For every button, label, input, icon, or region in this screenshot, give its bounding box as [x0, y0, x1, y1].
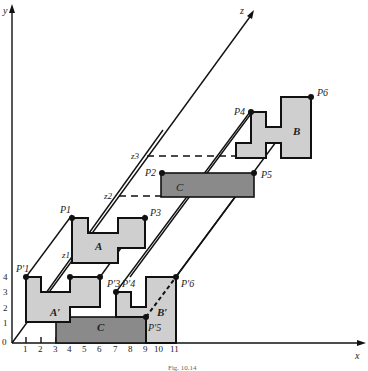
x-tick-9: 9 — [143, 344, 148, 354]
label-p3-prime: P′3 — [106, 278, 120, 289]
object-b-label: B — [292, 125, 300, 137]
point-a-prime-corner — [67, 274, 73, 280]
x-tick-5: 5 — [82, 344, 87, 354]
z3-label: z3 — [130, 151, 140, 161]
point-p6 — [308, 94, 314, 100]
z1-label: z1 — [61, 250, 70, 260]
x-tick-4: 4 — [67, 344, 72, 354]
point-p5-prime — [143, 314, 149, 320]
label-p5: P5 — [260, 169, 272, 180]
z-axis-arrow-icon — [247, 10, 254, 19]
point-p4-prime — [113, 289, 119, 295]
label-p4: P4 — [233, 106, 245, 117]
x-axis-label: x — [354, 350, 360, 361]
label-p5-prime: P′5 — [147, 322, 161, 333]
label-p1-prime: P′1 — [15, 263, 29, 274]
figure-caption: Fig. 10.14 — [168, 364, 197, 371]
z-axis-label: z — [239, 5, 244, 16]
x-tick-7: 7 — [113, 344, 118, 354]
x-tick-8: 8 — [128, 344, 133, 354]
x-axis-arrow-icon — [357, 340, 366, 346]
projector-p4 — [116, 112, 250, 292]
label-p2: P2 — [144, 167, 156, 178]
point-p4 — [248, 109, 254, 115]
projector-p1 — [26, 215, 72, 277]
label-p6-prime: P′6 — [180, 278, 194, 289]
object-a — [72, 218, 145, 263]
origin-label: 0 — [2, 337, 7, 347]
object-c-label: C — [176, 181, 184, 193]
point-p6-prime — [173, 274, 179, 280]
point-p3 — [142, 215, 148, 221]
point-p1 — [69, 215, 75, 221]
label-p4-prime: P′4 — [121, 278, 135, 289]
object-a-label: A — [94, 240, 102, 252]
object-c-prime-label: C — [97, 321, 105, 333]
x-tick-3: 3 — [53, 344, 58, 354]
y-tick-2: 2 — [3, 303, 8, 313]
x-tick-1: 1 — [23, 344, 28, 354]
x-tick-2: 2 — [38, 344, 43, 354]
y-tick-3: 3 — [3, 287, 8, 297]
z2-label: z2 — [103, 191, 113, 201]
point-p1-prime — [23, 274, 29, 280]
object-a-prime-label: A′ — [49, 306, 60, 318]
object-a-prime — [26, 277, 100, 322]
object-b-prime-label: B′ — [156, 306, 167, 318]
y-axis-arrow-icon — [9, 4, 15, 13]
x-tick-6: 6 — [97, 344, 102, 354]
point-p2 — [159, 170, 165, 176]
object-c — [161, 173, 254, 197]
point-p3-prime — [97, 274, 103, 280]
x-tick-10: 10 — [154, 344, 164, 354]
label-p6: P6 — [316, 87, 328, 98]
y-tick-1: 1 — [3, 318, 8, 328]
label-p3: P3 — [149, 207, 161, 218]
label-p1: P1 — [59, 204, 71, 215]
point-p5 — [251, 170, 257, 176]
y-tick-4: 4 — [3, 272, 8, 282]
projection-diagram: y x z 0 1 2 3 4 5 6 7 8 9 10 11 1 2 3 4 … — [0, 0, 368, 371]
y-axis-label: y — [2, 5, 8, 16]
x-tick-11: 11 — [170, 344, 179, 354]
